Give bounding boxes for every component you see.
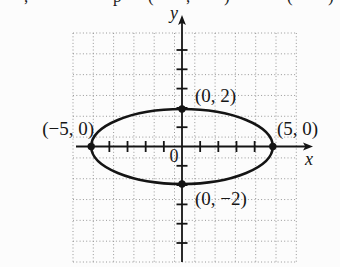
vertex-dot-bottom — [178, 180, 185, 187]
vertex-dot-right — [269, 143, 276, 150]
x-axis-label: x — [304, 149, 313, 169]
point-label-top: (0, 2) — [195, 85, 236, 107]
axes — [76, 20, 309, 262]
point-label-right: (5, 0) — [277, 118, 318, 140]
vertex-dot-top — [178, 105, 185, 112]
y-axis-label: y — [168, 3, 178, 23]
point-label-left: (−5, 0) — [42, 118, 94, 140]
grid-dotted-lines — [73, 33, 296, 262]
origin-label: 0 — [170, 146, 179, 166]
vertex-dot-left — [88, 143, 95, 150]
point-label-bottom: (0, −2) — [195, 188, 247, 210]
ellipse-graph-figure: ,p(,)() y x 0 (0, 2) (0, −2) (−5, 0) (5,… — [0, 0, 340, 267]
coordinate-plane: y x 0 (0, 2) (0, −2) (−5, 0) (5, 0) — [0, 0, 340, 267]
